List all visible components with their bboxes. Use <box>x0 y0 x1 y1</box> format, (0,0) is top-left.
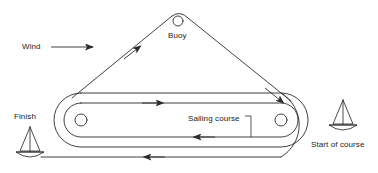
wind-label: Wind <box>22 43 41 51</box>
finish-sailboat-icon <box>16 126 44 157</box>
sailing-course-label: Sailing course <box>188 115 240 123</box>
track-inner-oval <box>64 103 298 137</box>
start-sailboat-icon <box>329 99 357 130</box>
leg-downwind-right <box>188 18 291 101</box>
windward-buoy-icon <box>173 16 183 26</box>
track-outer-oval <box>54 93 308 147</box>
direction-arrowheads <box>124 48 281 157</box>
arrowhead-downwind-leg <box>265 88 281 101</box>
leg-upwind-left <box>72 16 172 98</box>
left-mark-buoy-icon <box>75 114 87 126</box>
sailing-course-leader-line <box>245 116 251 137</box>
start-of-course-label: Start of course <box>311 141 365 149</box>
finish-label: Finish <box>14 113 36 121</box>
sailing-course-diagram: Wind Buoy Finish Sailing course Start of… <box>0 0 378 173</box>
right-mark-buoy-icon <box>275 114 287 126</box>
buoy-label: Buoy <box>168 32 187 40</box>
